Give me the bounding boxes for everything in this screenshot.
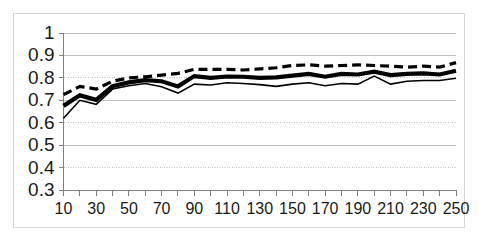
x-axis-ticks (64, 190, 457, 196)
y-axis-label-0.4: 0.4 (28, 158, 54, 177)
x-axis-label-250: 250 (432, 201, 479, 217)
y-axis-label-1: 1 (44, 23, 55, 42)
y-axis-label-0.3: 0.3 (28, 180, 54, 199)
chart-container: 0.30.40.50.60.70.80.91 10305070901101301… (0, 0, 479, 243)
gridlines-group (64, 33, 457, 190)
y-axis-line (59, 33, 64, 190)
y-axis-label-0.5: 0.5 (28, 135, 54, 154)
y-axis-label-0.9: 0.9 (28, 45, 54, 64)
y-axis-label-0.8: 0.8 (28, 68, 54, 87)
y-axis-label-0.7: 0.7 (28, 90, 54, 109)
y-axis-label-0.6: 0.6 (28, 113, 54, 132)
data-series-group (64, 63, 457, 119)
